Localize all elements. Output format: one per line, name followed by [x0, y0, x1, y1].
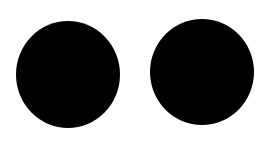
left-circle: [16, 21, 120, 128]
right-circle: [150, 19, 254, 125]
